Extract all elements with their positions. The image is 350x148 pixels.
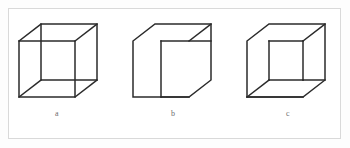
cube-a-front-face-edges [19,41,75,97]
cube-a-depth-edge-bottom-right [75,80,97,97]
cube-panel-b [133,24,211,97]
cube-a-depth-edge-top-right [75,24,97,41]
cube-panel-a [19,24,97,97]
cube-diagram-svg [0,0,350,148]
cube-label-b: b [163,109,183,119]
cube-a-back-face-edges [41,24,97,80]
cube-label-c: c [278,109,298,119]
cube-a-depth-edge-bottom-left [19,80,41,97]
cube-panel-c [247,24,325,97]
cube-label-a: a [47,109,67,119]
figure-root: a b c [0,0,350,148]
cube-a-depth-edge-top-left [19,24,41,41]
cube-c-solid-fill [247,24,325,97]
cube-b-solid-fill [133,24,211,97]
